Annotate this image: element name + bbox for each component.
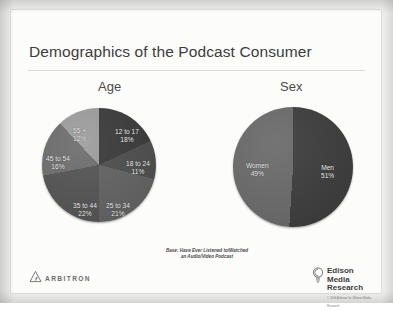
slice-name: Women [246,162,269,169]
pie-slice-label-18-to-24: 18 to 24 11% [126,160,150,176]
edison-copyright: © 2006 Arbitron Inc./Edison Media Resear… [327,294,381,311]
slice-name: 12 to 17 [115,128,139,135]
slice-pct: 12% [73,135,86,143]
base-note-line-1: Base: Have Ever Listened to/Watched [166,248,248,253]
arbitron-wordmark: ARBITRON [45,275,91,282]
pie-slice-label-men: Men 51% [321,164,334,180]
pie-slice-label-12-to-17: 12 to 17 18% [115,128,139,144]
edison-logo: Edison Media Research © 2006 Arbitron In… [312,267,381,311]
edison-line-2: Media Research [327,276,381,293]
slice-name: 45 to 54 [46,155,70,162]
arbitron-triangle-icon [29,269,42,287]
slice-pct: 11% [126,168,150,176]
pie-slice-label-45-to-54: 45 to 54 16% [46,155,70,171]
pie-slice-label-35-to-44: 35 to 44 22% [73,202,97,218]
edison-wordmark: Edison Media Research © 2006 Arbitron In… [327,267,381,311]
slice-pct: 16% [46,163,70,171]
pie-slice-label-25-to-34: 25 to 34 21% [106,202,130,218]
slice-pct: 21% [106,210,130,218]
title-divider [28,70,365,71]
page-title: Demographics of the Podcast Consumer [29,43,312,61]
slice-name: 18 to 24 [126,160,150,167]
slice-name: 25 to 34 [106,202,130,209]
pie-slice-label-women: Women 49% [246,162,269,178]
slide-card: Demographics of the Podcast Consumer Age… [11,10,381,293]
arbitron-logo: ARBITRON [29,269,91,287]
lightbulb-icon [312,267,324,288]
base-note-line-2: an Audio/Video Podcast [181,254,233,259]
slice-pct: 22% [73,210,97,218]
slice-name: 55 + [73,127,86,134]
slice-name: 35 to 44 [73,202,97,209]
chart-heading-age: Age [98,79,121,94]
slice-name: Men [321,164,334,171]
pie-slice-label-55-plus: 55 + 12% [73,127,86,143]
chart-heading-sex: Sex [280,79,302,94]
slice-pct: 51% [321,172,334,180]
slice-pct: 18% [115,136,139,144]
base-note: Base: Have Ever Listened to/Watched an A… [146,248,268,260]
slice-pct: 49% [246,170,269,178]
